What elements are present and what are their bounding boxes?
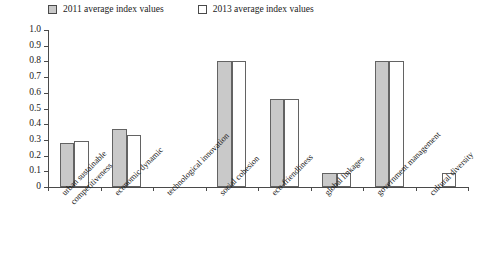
y-axis-tick-mark [44, 140, 48, 141]
y-axis-tick-label: 0.6 [29, 87, 41, 98]
y-axis-tick-mark [44, 171, 48, 172]
y-axis-tick-label: 0.4 [29, 118, 41, 129]
legend-item-2013: 2013 average index values [198, 4, 314, 14]
y-axis-tick-label: 0.9 [29, 40, 41, 51]
y-axis-tick-label: 0.3 [29, 134, 41, 145]
x-axis-tick-mark [258, 187, 259, 191]
y-axis-tick-mark [44, 124, 48, 125]
x-axis-tick-mark [363, 187, 364, 191]
legend-swatch-filled-icon [48, 5, 57, 14]
y-axis-line [48, 30, 49, 187]
x-axis-tick-mark [468, 187, 469, 191]
x-axis-tick-mark [101, 187, 102, 191]
y-axis-tick-label: 0.1 [29, 165, 41, 176]
x-axis-tick-mark [311, 187, 312, 191]
y-axis-tick-mark [44, 77, 48, 78]
y-axis-tick-label: 0.2 [29, 150, 41, 161]
y-axis-tick-label: 1.0 [29, 24, 41, 35]
bar-2011 [375, 61, 390, 187]
y-axis-tick-mark [44, 61, 48, 62]
y-axis-tick-label: 0 [36, 181, 41, 192]
y-axis-tick-mark [44, 156, 48, 157]
x-axis-tick-mark [416, 187, 417, 191]
x-axis-tick-mark [153, 187, 154, 191]
chart-legend: 2011 average index values 2013 average i… [48, 4, 348, 14]
bar-2011 [217, 61, 232, 187]
bar-chart: 2011 average index values 2013 average i… [0, 0, 481, 280]
x-axis-tick-mark [48, 187, 49, 191]
y-axis-tick-mark [44, 93, 48, 94]
y-axis-tick-label: 0.8 [29, 55, 41, 66]
y-axis-tick-mark [44, 30, 48, 31]
legend-swatch-empty-icon [198, 5, 207, 14]
y-axis-tick-label: 0.5 [29, 103, 41, 114]
legend-item-2011: 2011 average index values [48, 4, 164, 14]
legend-label-2011: 2011 average index values [63, 4, 164, 14]
x-axis-tick-mark [206, 187, 207, 191]
y-axis-tick-mark [44, 46, 48, 47]
y-axis-tick-mark [44, 109, 48, 110]
legend-label-2013: 2013 average index values [213, 4, 314, 14]
bar-2011 [270, 99, 285, 187]
y-axis-tick-label: 0.7 [29, 71, 41, 82]
